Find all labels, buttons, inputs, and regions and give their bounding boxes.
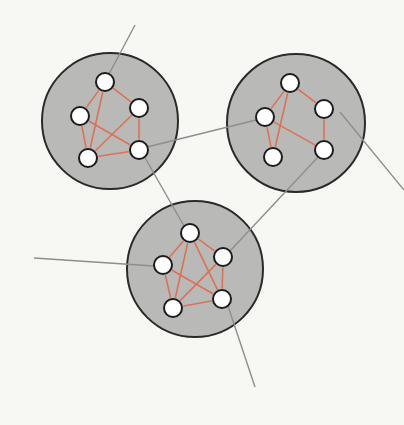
cluster-top-right-node-L [256, 108, 274, 126]
cluster-discs [42, 53, 365, 337]
cluster-bottom-node-T [181, 224, 199, 242]
cluster-top-right-disc [227, 54, 365, 192]
cluster-bottom-node-BL [164, 299, 182, 317]
cluster-top-left-node-T [96, 73, 114, 91]
cluster-bottom-node-BR [213, 290, 231, 308]
network-cluster-diagram [0, 0, 404, 425]
cluster-top-left-node-BL [79, 149, 97, 167]
cluster-bottom-node-L [154, 256, 172, 274]
cluster-top-left-node-R [130, 99, 148, 117]
cluster-top-left-node-BR [130, 141, 148, 159]
cluster-bottom-node-R [214, 248, 232, 266]
cluster-top-right-node-R [315, 100, 333, 118]
cluster-top-right-node-T [281, 74, 299, 92]
cluster-top-right-node-BR [315, 141, 333, 159]
cluster-bottom-disc [127, 201, 263, 337]
cluster-top-right-node-BL [264, 148, 282, 166]
cluster-top-left-node-L [71, 107, 89, 125]
